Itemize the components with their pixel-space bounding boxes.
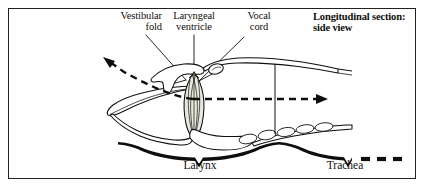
label-vestibular-fold: Vestibular fold xyxy=(96,11,162,33)
label-larynx: Larynx xyxy=(150,160,250,172)
thyroid-cricoid-wall xyxy=(110,114,192,145)
laryngeal-anatomy-figure: Vestibular fold Laryngeal ventricle Voca… xyxy=(0,0,426,191)
airflow-arrowhead-left xyxy=(103,57,115,68)
larynx-lower-structures xyxy=(110,114,352,150)
upper-trachea-roof xyxy=(338,69,352,71)
larynx-upper-structures xyxy=(107,58,352,116)
tracheal-cartilage-rings xyxy=(238,122,333,145)
label-trachea: Trachea xyxy=(300,160,390,172)
upper-airway-wall xyxy=(203,58,338,73)
vocal-cord-group xyxy=(184,72,204,138)
label-laryngeal-ventricle: Laryngeal ventricle xyxy=(162,11,226,33)
label-vocal-cord: Vocal cord xyxy=(231,11,287,33)
airflow-arrowhead-right xyxy=(316,94,328,104)
figure-heading: Longitudinal section: side view xyxy=(313,12,413,34)
upper-trachea-roof-inner xyxy=(338,73,352,75)
